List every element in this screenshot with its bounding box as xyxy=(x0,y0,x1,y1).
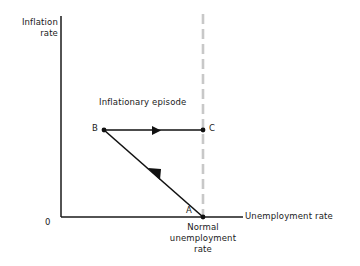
normal-rate-line1: Normal xyxy=(187,222,219,232)
path-a-to-b-arrowhead xyxy=(148,168,161,180)
origin-label: 0 xyxy=(45,217,51,228)
point-label-b: B xyxy=(92,123,98,134)
x-axis-label: Unemployment rate xyxy=(245,211,333,222)
phillips-curve-figure: Inflationrate Unemployment rate 0 Inflat… xyxy=(0,0,360,266)
data-point-b xyxy=(102,128,107,133)
point-label-c: C xyxy=(209,123,215,134)
inflationary-episode-annotation: Inflationary episode xyxy=(99,97,186,108)
normal-unemployment-rate-annotation: Normalunemploymentrate xyxy=(153,222,253,255)
data-point-c xyxy=(201,128,206,133)
normal-rate-line2: unemployment xyxy=(170,233,236,243)
data-point-a xyxy=(201,215,206,220)
point-label-a: A xyxy=(186,205,192,216)
y-axis-label: Inflationrate xyxy=(4,17,58,39)
path-b-to-c-arrowhead xyxy=(152,126,161,135)
y-axis-label-line1: Inflation xyxy=(22,17,58,27)
y-axis-label-line2: rate xyxy=(40,28,58,38)
normal-rate-line3: rate xyxy=(194,244,212,254)
